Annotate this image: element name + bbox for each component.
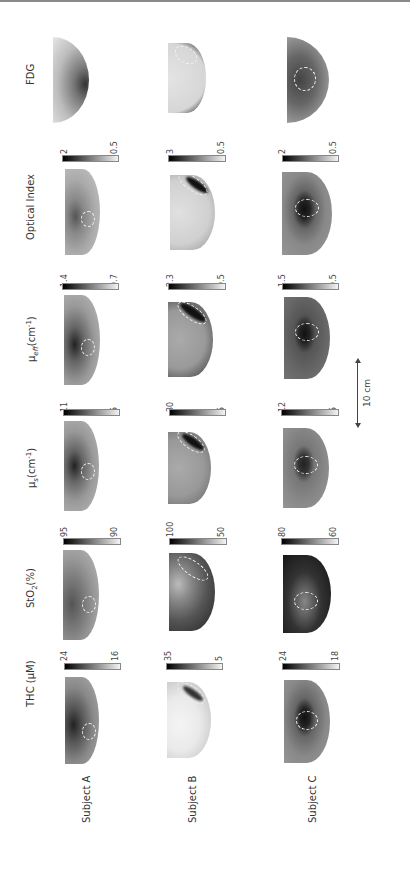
fdg-image-subject-b: [168, 43, 206, 113]
thc-cbar-c-max: 24: [279, 651, 288, 661]
header-optical-index: Optical Index: [25, 174, 36, 240]
sto2-cbar-a-min: 90: [110, 527, 119, 537]
oi-image-subject-c: [282, 172, 332, 255]
thc-image-subject-c: [284, 680, 330, 763]
sto2-cbar-b-min: 50: [217, 527, 226, 537]
mueff-colorbar-c: [282, 283, 339, 290]
sto2-colorbar-a: [63, 538, 121, 545]
mus-colorbar-c: [281, 409, 339, 416]
oi-image-subject-a: [65, 169, 100, 255]
sto2-image-subject-b: [169, 553, 215, 631]
subject-b-label: Subject B: [187, 776, 198, 823]
thc-colorbar-c: [282, 663, 340, 670]
thc-cbar-c-min: 18: [331, 651, 340, 661]
sto2-cbar-b-max: 100: [166, 522, 175, 537]
header-fdg: FDG: [25, 64, 36, 85]
subject-c-label: Subject C: [307, 775, 318, 823]
oi-cbar-b-max: 3: [166, 149, 175, 154]
top-border: [0, 0, 410, 2]
oi-cbar-c-min: 0.5: [329, 141, 338, 154]
mueff-colorbar-a: [62, 283, 119, 290]
subject-a-label: Subject A: [81, 776, 92, 823]
thc-cbar-a-max: 24: [60, 651, 69, 661]
fdg-image-subject-a: [53, 37, 89, 123]
mus-image-subject-c: [283, 428, 329, 508]
oi-cbar-b-min: 0.5: [217, 141, 226, 154]
thc-cbar-b-max: 35: [164, 651, 173, 661]
oi-cbar-c-max: 2: [278, 149, 287, 154]
sto2-colorbar-b: [169, 538, 227, 545]
sto2-cbar-c-max: 80: [278, 527, 287, 537]
oi-colorbar-b: [168, 155, 226, 162]
header-sto2: StO2(%): [25, 568, 39, 608]
header-mueff: μeff(cm-1): [25, 316, 40, 362]
oi-image-subject-b: [170, 175, 215, 250]
oi-cbar-a-min: 0.5: [110, 141, 119, 154]
scale-bar-label: 10 cm: [362, 379, 372, 407]
oi-cbar-a-max: 2: [60, 149, 69, 154]
thc-cbar-a-min: 16: [111, 651, 120, 661]
fdg-image-subject-c: [287, 37, 329, 123]
header-thc: THC (μM): [25, 660, 36, 707]
thc-colorbar-b: [166, 663, 223, 670]
oi-colorbar-a: [62, 155, 119, 162]
thc-image-subject-b: [167, 682, 211, 758]
thc-cbar-b-min: 5: [215, 656, 224, 661]
thc-image-subject-a: [65, 677, 99, 764]
sto2-cbar-a-max: 95: [60, 527, 69, 537]
mueff-image-subject-b: [168, 302, 213, 377]
oi-colorbar-c: [282, 155, 339, 162]
mus-colorbar-a: [63, 409, 120, 416]
mueff-image-subject-a: [64, 295, 100, 385]
sto2-colorbar-c: [281, 538, 339, 545]
sto2-image-subject-c: [283, 555, 331, 633]
header-mus: μs(cm-1): [25, 448, 40, 488]
sto2-image-subject-a: [63, 550, 99, 640]
thc-colorbar-a: [64, 663, 121, 670]
mus-image-subject-b: [168, 432, 211, 504]
mus-colorbar-b: [169, 409, 226, 416]
mus-image-subject-a: [64, 421, 99, 511]
mueff-colorbar-b: [168, 283, 226, 290]
scale-bar-arrow: [357, 360, 358, 426]
sto2-cbar-c-min: 60: [329, 527, 338, 537]
mueff-image-subject-c: [284, 297, 330, 379]
